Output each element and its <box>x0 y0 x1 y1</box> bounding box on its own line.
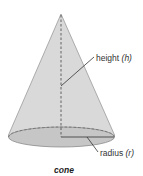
height-label: height (h) <box>96 53 132 63</box>
cone-diagram: height (h) radius (r) cone <box>0 0 143 176</box>
cone-body <box>9 14 115 145</box>
caption: cone <box>54 165 74 175</box>
radius-label: radius (r) <box>100 148 134 158</box>
